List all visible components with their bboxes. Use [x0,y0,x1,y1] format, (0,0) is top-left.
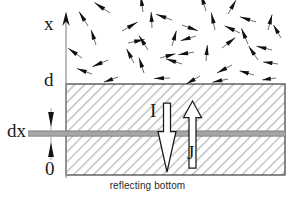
slab-region [66,84,285,175]
scatter-arrow-head [140,0,144,6]
scatter-arrow-head [187,25,198,31]
scatter-arrow-head [241,28,247,39]
scatter-arrow-head [225,26,235,32]
scatter-arrow-head [79,12,86,22]
flux-label-upward: J [187,143,194,162]
scatter-arrow-head [126,49,133,59]
scatter-arrow-head [262,77,271,81]
scatter-arrow-head [91,30,96,40]
scatter-arrow-head [77,69,87,74]
scatter-arrow-head [156,14,167,20]
scatter-arrow-head [226,38,236,46]
axis-label-depth-bottom: 0 [45,159,55,178]
scatter-arrow-head [139,58,144,68]
axis-label-x: x [44,14,54,33]
scatter-arrow-head [211,12,215,23]
scatter-arrow-head [240,17,251,22]
scatter-arrow-head [150,12,154,22]
scatter-arrow-head [212,78,222,82]
scatter-arrow-head [181,36,191,41]
scatter-arrow-head [217,66,227,73]
scatter-arrow-head [154,76,164,80]
flux-label-downward: I [150,101,156,120]
scatter-arrow-head [201,0,206,5]
figure-caption: reflecting bottom [0,180,295,191]
scatter-arrow-head [104,77,113,82]
scatter-arrow-head [172,31,177,41]
scatter-arrow-head [256,46,266,50]
scatter-arrow-head [166,59,177,64]
slab-radiation-diagram: x d dx 0 I J reflecting bottom [0,0,295,199]
scatter-arrow-head [178,51,188,55]
scatter-arrow-head [248,46,256,56]
scatter-arrow-head [94,2,105,10]
axis-label-layer-thickness: dx [7,121,26,140]
axis-label-depth-top: d [44,70,54,89]
scatter-arrow-head [165,54,175,59]
dx-layer-band [28,131,285,136]
random-arrow-field-icon [68,0,281,84]
scatter-arrow-head [268,15,273,25]
scatter-arrow-head [240,71,250,76]
scatter-arrow-head [92,61,103,67]
scatter-arrow-head [229,0,236,10]
scatter-arrow-head [68,48,78,56]
scatter-arrow-head [186,77,196,84]
scatter-arrow-head [127,22,138,29]
scatter-arrow-head [274,25,281,34]
scatter-arrow-head [204,45,208,55]
